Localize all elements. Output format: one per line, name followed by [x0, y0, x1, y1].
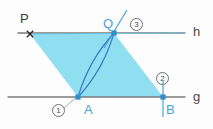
label-point-q: Q [103, 17, 113, 30]
step-badge-1: 1 [52, 104, 65, 117]
step-badge-3: 3 [130, 18, 143, 31]
shaded-parallelogram [30, 33, 163, 97]
point-marker-q [111, 30, 116, 35]
label-point-p: P [20, 12, 29, 25]
label-point-b: B [166, 103, 175, 116]
label-point-a: A [84, 103, 93, 116]
label-line-h: h [193, 25, 200, 38]
geometry-figure: h g P Q A B 1 2 3 [0, 0, 213, 129]
label-line-g: g [193, 90, 200, 103]
step-badge-2: 2 [156, 72, 169, 85]
point-marker-a [75, 94, 80, 99]
point-marker-b [160, 94, 165, 99]
